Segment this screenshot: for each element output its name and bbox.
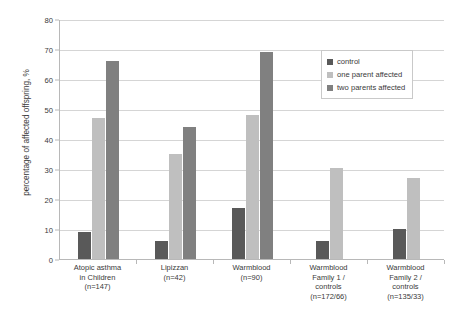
legend-swatch-icon (327, 85, 333, 91)
bar (155, 241, 168, 259)
x-axis-label-line: in Children (59, 273, 136, 283)
y-axis-tick-label: 60 (45, 76, 53, 85)
legend-swatch-icon (327, 59, 333, 65)
x-axis-label-line: (n=42) (136, 273, 213, 283)
legend-label: one parent affected (337, 70, 402, 79)
x-axis-label: Warmblood(n=90) (213, 263, 290, 282)
x-axis-label-line: (n=90) (213, 273, 290, 283)
bar-group (60, 20, 137, 259)
bar (78, 232, 91, 259)
bar (407, 178, 420, 259)
bar (246, 115, 259, 259)
x-axis-label-line: Warmblood (367, 263, 444, 273)
x-axis-label: WarmbloodFamily 1 /controls(n=172/66) (290, 263, 367, 301)
x-axis-label-line: Family 1 / (290, 273, 367, 283)
y-axis-tick-label: 40 (45, 136, 53, 145)
x-axis-label: WarmbloodFamily 2 /controls(n=135/33) (367, 263, 444, 301)
y-axis-tick-label: 0 (49, 256, 53, 265)
bar-group (214, 20, 291, 259)
bar (232, 208, 245, 259)
bar (260, 52, 273, 259)
bar-chart: percentage of affected offspring, % 0102… (0, 0, 450, 321)
bar (92, 118, 105, 259)
y-axis-ticks: 01020304050607080 (0, 20, 59, 260)
x-axis-label-line: Warmblood (213, 263, 290, 273)
legend-item: control (327, 55, 405, 68)
y-axis-tick-label: 70 (45, 46, 53, 55)
chart-legend: controlone parent affectedtwo parents af… (321, 50, 413, 99)
legend-item: two parents affected (327, 81, 405, 94)
y-axis-tick-label: 30 (45, 166, 53, 175)
bar (393, 229, 406, 259)
x-axis-label-line: controls (290, 282, 367, 292)
legend-label: control (337, 57, 360, 66)
legend-swatch-icon (327, 72, 333, 78)
x-axis-label-line: (n=135/33) (367, 292, 444, 302)
x-axis-labels: Atopic asthmain Children(n=147)Lipizzan(… (59, 263, 444, 321)
y-axis-tick-label: 80 (45, 16, 53, 25)
bar (169, 154, 182, 259)
bar (330, 168, 343, 260)
y-axis-tick-label: 20 (45, 196, 53, 205)
bar (183, 127, 196, 259)
x-axis-label-line: Warmblood (290, 263, 367, 273)
legend-label: two parents affected (337, 83, 405, 92)
x-axis-label-line: Atopic asthma (59, 263, 136, 273)
x-axis-label: Atopic asthmain Children(n=147) (59, 263, 136, 292)
bar (316, 241, 329, 259)
bar (106, 61, 119, 259)
x-axis-label-line: (n=147) (59, 282, 136, 292)
x-axis-label-line: controls (367, 282, 444, 292)
x-axis-label: Lipizzan(n=42) (136, 263, 213, 282)
x-axis-label-line: Lipizzan (136, 263, 213, 273)
legend-item: one parent affected (327, 68, 405, 81)
bar-group (137, 20, 214, 259)
y-axis-tick-label: 50 (45, 106, 53, 115)
x-axis-tick-mark (444, 260, 445, 264)
x-axis-label-line: (n=172/66) (290, 292, 367, 302)
x-axis-label-line: Family 2 / (367, 273, 444, 283)
y-axis-tick-label: 10 (45, 226, 53, 235)
